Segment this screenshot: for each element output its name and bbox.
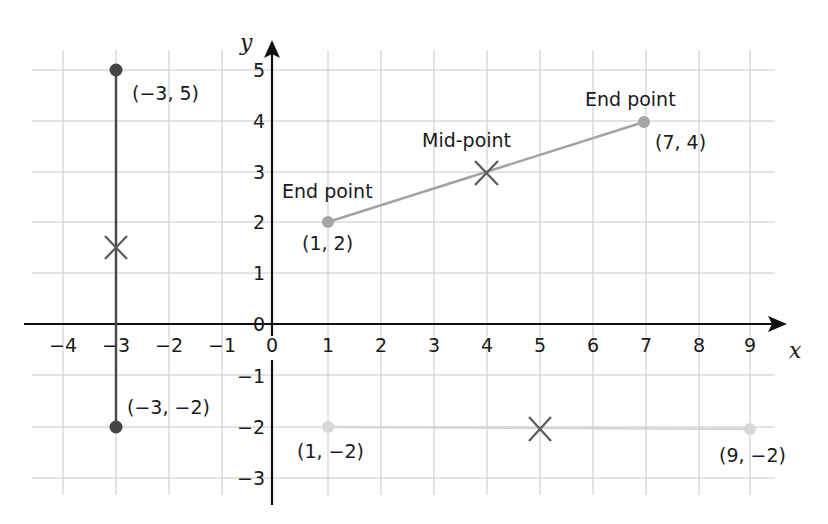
y-tick-4: 4 (253, 110, 265, 132)
y-tick-2: 2 (253, 211, 265, 233)
x-tick-m2: −2 (155, 334, 183, 356)
y-tick-0: 0 (253, 313, 265, 335)
label-pt-7-4: (7, 4) (655, 131, 706, 153)
endpoint-dot-9-m2 (744, 423, 756, 435)
y-tick-m1: −1 (237, 365, 265, 387)
x-tick-8: 8 (693, 334, 705, 356)
label-pt-m3-5: (−3, 5) (132, 82, 199, 104)
endpoint-dot-1-2 (322, 216, 334, 228)
x-tick-m4: −4 (49, 334, 77, 356)
x-tick-4: 4 (481, 334, 493, 356)
label-pt-9-m2: (9, −2) (719, 444, 786, 466)
endpoint-dot-7-4 (638, 116, 650, 128)
y-tick-1: 1 (253, 262, 265, 284)
sloped-segment: End point End point Mid-point (1, 2) (7,… (282, 88, 706, 254)
end-point-label-left: End point (282, 180, 373, 202)
x-tick-3: 3 (428, 334, 440, 356)
y-tick-m3: −3 (237, 467, 265, 489)
y-tick-5: 5 (253, 59, 265, 81)
x-tick-2: 2 (375, 334, 387, 356)
endpoint-dot-m3-m2 (110, 421, 123, 434)
x-tick-labels: −4 −3 −2 −1 0 1 2 3 4 5 6 7 8 9 (49, 334, 756, 356)
endpoint-dot-m3-5 (110, 64, 123, 77)
x-tick-5: 5 (534, 334, 546, 356)
coordinate-diagram: y x −4 −3 −2 −1 0 1 2 3 4 5 6 7 8 9 5 4 … (0, 0, 828, 524)
x-tick-9: 9 (744, 334, 756, 356)
x-axis (24, 316, 787, 332)
y-tick-3: 3 (253, 161, 265, 183)
mid-point-label: Mid-point (422, 129, 511, 151)
x-tick-6: 6 (587, 334, 599, 356)
label-pt-1-2: (1, 2) (302, 232, 353, 254)
y-axis-label: y (239, 30, 253, 55)
end-point-label-right: End point (585, 88, 676, 110)
label-pt-m3-m2: (−3, −2) (127, 396, 210, 418)
label-pt-1-m2: (1, −2) (297, 440, 364, 462)
x-tick-0: 0 (266, 334, 278, 356)
x-axis-label: x (789, 338, 802, 363)
y-tick-m2: −2 (237, 416, 265, 438)
x-tick-m1: −1 (208, 334, 236, 356)
endpoint-dot-1-m2 (322, 421, 334, 433)
x-tick-7: 7 (640, 334, 652, 356)
horizontal-segment: (1, −2) (9, −2) (297, 417, 786, 466)
x-tick-1: 1 (322, 334, 334, 356)
vertical-segment: (−3, 5) (−3, −2) (105, 64, 210, 434)
y-tick-labels: 5 4 3 2 1 0 −1 −2 −3 (237, 59, 265, 489)
